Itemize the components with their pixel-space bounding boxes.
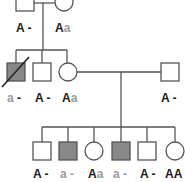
genotype-label-II-2: A -	[35, 92, 51, 104]
individual-III-2-male-affected[interactable]	[59, 142, 77, 160]
genotype-label-III-1: A -	[33, 168, 49, 180]
genotype-label-II-1: a -	[7, 92, 21, 104]
genotype-label-III-3: Aa	[88, 168, 103, 180]
individual-I-2-female[interactable]	[55, 0, 73, 11]
individual-II-4-male[interactable]	[161, 63, 179, 81]
individual-II-3-female[interactable]	[59, 63, 77, 81]
genotype-label-III-5: A -	[140, 168, 156, 180]
individual-III-4-male-affected[interactable]	[112, 142, 130, 160]
genotype-label-II-4: A -	[161, 92, 177, 104]
individual-III-3-female[interactable]	[85, 142, 103, 160]
genotype-label-I-1: A -	[16, 22, 32, 34]
genotype-label-III-6: AA	[165, 168, 182, 180]
individual-III-5-male[interactable]	[138, 142, 156, 160]
genotype-label-III-4: a -	[113, 168, 127, 180]
individual-I-1-male[interactable]	[16, 0, 34, 11]
individual-III-1-male[interactable]	[33, 142, 51, 160]
individual-II-2-male[interactable]	[33, 63, 51, 81]
genotype-label-I-2: Aa	[55, 22, 70, 34]
individual-III-6-female[interactable]	[166, 142, 184, 160]
genotype-label-III-2: a -	[60, 168, 74, 180]
genotype-label-II-3: Aa	[62, 92, 77, 104]
